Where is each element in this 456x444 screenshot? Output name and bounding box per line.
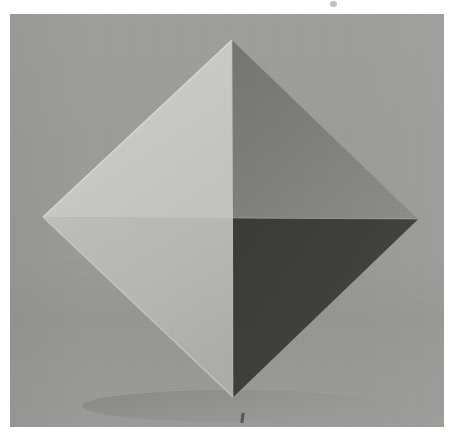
octahedron-graphic bbox=[10, 14, 444, 427]
figure-title: Octahedron shading study bbox=[0, 21, 1, 22]
dust-speck-artifact bbox=[330, 1, 337, 7]
photograph-plate bbox=[10, 14, 444, 427]
figure-root: Octahedron shading study bbox=[0, 0, 456, 444]
